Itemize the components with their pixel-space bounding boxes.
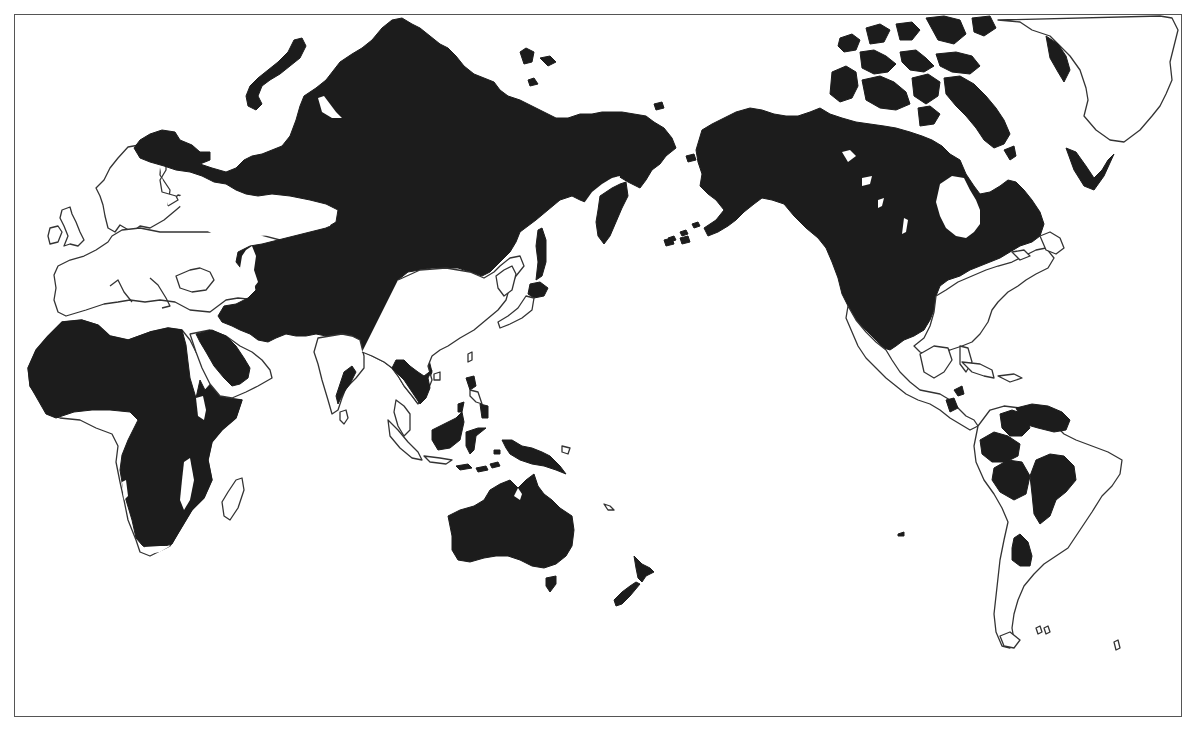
oceania-region xyxy=(448,474,904,606)
world-distribution-map xyxy=(0,0,1192,737)
south-america-region xyxy=(974,404,1122,650)
north-america-region xyxy=(668,16,1178,430)
